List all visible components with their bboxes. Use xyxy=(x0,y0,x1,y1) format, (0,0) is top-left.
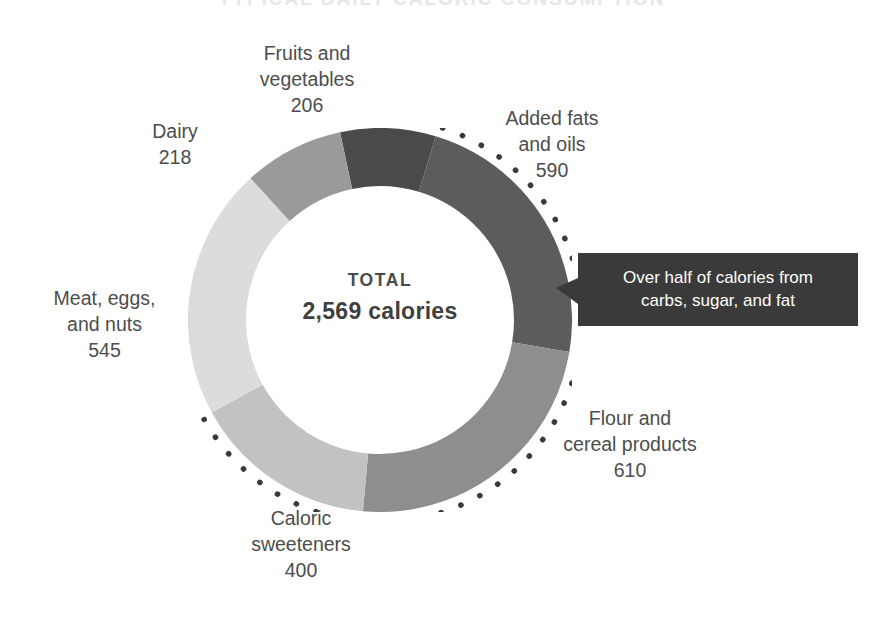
annotation-callout: Over half of calories from carbs, sugar,… xyxy=(578,253,858,326)
label-added-fats-and-oils: Added fats and oils 590 xyxy=(472,105,632,183)
label-meat-eggs-and-nuts-line2: and nuts xyxy=(22,311,187,337)
label-added-fats-and-oils-line2: and oils xyxy=(472,131,632,157)
label-dairy-value: 218 xyxy=(120,144,230,170)
label-added-fats-and-oils-value: 590 xyxy=(472,157,632,183)
label-meat-eggs-and-nuts-line1: Meat, eggs, xyxy=(22,285,187,311)
label-meat-eggs-and-nuts: Meat, eggs, and nuts 545 xyxy=(22,285,187,363)
label-fruits-and-vegetables-line1: Fruits and xyxy=(232,40,382,66)
label-flour-and-cereal-products-line2: cereal products xyxy=(530,431,730,457)
label-caloric-sweeteners-line2: sweeteners xyxy=(216,531,386,557)
donut-chart: TOTAL 2,569 calories xyxy=(188,128,572,512)
page-title: TYPICAL DAILY CALORIC CONSUMPTION xyxy=(0,0,884,10)
label-fruits-and-vegetables-line2: vegetables xyxy=(232,66,382,92)
label-dairy-line1: Dairy xyxy=(120,118,230,144)
label-caloric-sweeteners-value: 400 xyxy=(216,557,386,583)
label-flour-and-cereal-products-line1: Flour and xyxy=(530,405,730,431)
annotation-callout-line1: Over half of calories from xyxy=(592,266,844,289)
annotation-callout-line2: carbs, sugar, and fat xyxy=(592,289,844,312)
label-caloric-sweeteners-line1: Caloric xyxy=(216,505,386,531)
label-fruits-and-vegetables: Fruits and vegetables 206 xyxy=(232,40,382,118)
donut-chart-figure: TYPICAL DAILY CALORIC CONSUMPTION xyxy=(0,0,884,620)
label-flour-and-cereal-products: Flour and cereal products 610 xyxy=(530,405,730,483)
label-added-fats-and-oils-line1: Added fats xyxy=(472,105,632,131)
label-fruits-and-vegetables-value: 206 xyxy=(232,92,382,118)
label-dairy: Dairy 218 xyxy=(120,118,230,170)
donut-center-total-label: TOTAL xyxy=(188,270,572,291)
label-caloric-sweeteners: Caloric sweeteners 400 xyxy=(216,505,386,583)
callout-arrow-icon xyxy=(556,278,578,304)
donut-center-total-value: 2,569 calories xyxy=(188,298,572,325)
label-flour-and-cereal-products-value: 610 xyxy=(530,457,730,483)
label-meat-eggs-and-nuts-value: 545 xyxy=(22,337,187,363)
